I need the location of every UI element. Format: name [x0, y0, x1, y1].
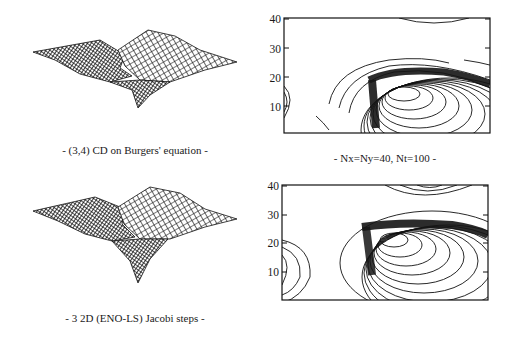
surface-mesh-graphic	[0, 169, 255, 299]
caption-bottom-left: - 3 2D (ENO-LS) Jacobi steps -	[65, 312, 204, 324]
y-tick-20: 20	[257, 237, 279, 249]
y-tick-40: 40	[257, 180, 279, 192]
contour-graphic	[282, 185, 492, 305]
contour-plot-bottom-right: 40 30 20 10	[255, 169, 510, 338]
surface-plot-bottom-left: - 3 2D (ENO-LS) Jacobi steps -	[0, 169, 255, 338]
y-tick-40: 40	[259, 13, 281, 25]
y-tick-10: 10	[259, 101, 281, 113]
y-tick-30: 30	[259, 43, 281, 55]
caption-top-left: - (3,4) CD on Burgers' equation -	[62, 144, 208, 156]
caption-top-right: - Nx=Ny=40, Nt=100 -	[334, 152, 436, 164]
surface-plot-top-left: - (3,4) CD on Burgers' equation -	[0, 0, 255, 169]
y-tick-10: 10	[257, 266, 279, 278]
contour-graphic	[284, 18, 494, 138]
y-tick-20: 20	[259, 72, 281, 84]
contour-plot-top-right: 40 30 20 10	[255, 0, 510, 169]
y-tick-30: 30	[257, 209, 279, 221]
surface-mesh-graphic	[0, 0, 255, 130]
